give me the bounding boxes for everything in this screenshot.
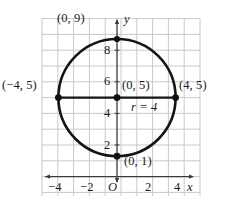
y-axis-label: y: [124, 13, 130, 26]
point-right-marker: [172, 94, 179, 101]
x-tick-label-neg2: −2: [80, 181, 94, 194]
y-tick-label-6: 6: [104, 75, 110, 88]
point-label-bottom: (0, 1): [124, 155, 152, 168]
x-tick-label-neg4: −4: [48, 181, 62, 194]
y-tick-label-4: 4: [104, 107, 110, 120]
point-left-marker: [55, 94, 62, 101]
point-center-marker: [114, 94, 121, 101]
point-label-center: (0, 5): [122, 79, 150, 92]
y-tick-label-8: 8: [104, 44, 110, 57]
point-label-left: (−4, 5): [2, 79, 37, 92]
x-axis-label: x: [187, 181, 193, 194]
coordinate-plane-svg: [0, 0, 229, 206]
x-tick-label-2: 2: [145, 181, 151, 194]
point-bottom-marker: [114, 153, 121, 160]
x-axis: [45, 174, 194, 178]
grid-lines: [42, 18, 200, 196]
x-tick-label-4: 4: [174, 181, 180, 194]
point-label-right: (4, 5): [179, 79, 207, 92]
y-tick-label-2: 2: [104, 139, 110, 152]
origin-label: O: [108, 181, 117, 194]
point-top-marker: [114, 36, 120, 42]
radius-annotation: r = 4: [131, 101, 157, 114]
circle-graph-figure: (0, 9) y (−4, 5) (4, 5) (0, 5) r = 4 (0,…: [0, 0, 229, 206]
point-label-top: (0, 9): [57, 12, 85, 25]
